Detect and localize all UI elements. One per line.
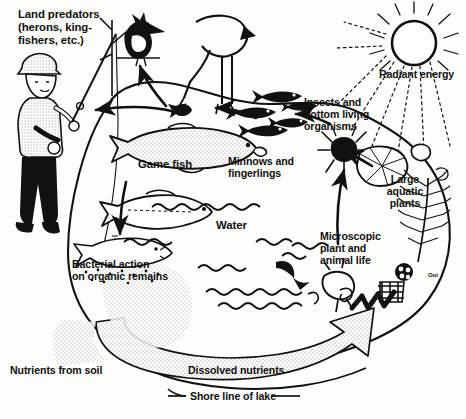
label-microscopic-life: Microscopic plant and animal life (320, 230, 381, 266)
artist-signature: Oui (428, 272, 438, 279)
label-shore-line-of-lake: Shore line of lake (190, 390, 276, 402)
label-radiant-energy: Radiant energy (379, 68, 454, 80)
diagram-artwork (0, 0, 466, 419)
label-bacterial-action: Bacterial action on organic remains (72, 258, 168, 282)
label-dissolved-nutrients: Dissolved nutrients (188, 364, 284, 376)
kingfisher-bird-icon (100, 12, 165, 96)
label-nutrients-from-soil: Nutrients from soil (10, 364, 102, 376)
heron-bird-icon (168, 16, 256, 118)
arrow-fish-to-fisherman (96, 107, 176, 112)
arrow-fish-to-kingfisher (140, 66, 166, 106)
label-large-aquatic-plants: Large aquatic plants (374, 173, 436, 209)
label-land-predators: Land predators (herons, king- fishers, e… (18, 8, 100, 47)
plankton-colony (395, 263, 413, 281)
label-insects-bottom-living: Insects and bottom living organisms (304, 96, 369, 132)
label-minnows-fingerlings: Minnows and fingerlings (228, 155, 294, 179)
lake-ecosystem-diagram: Land predators (herons, king- fishers, e… (0, 0, 466, 419)
label-game-fish: Game fish (138, 158, 192, 171)
fisherman-icon (16, 34, 118, 245)
label-water: Water (216, 219, 247, 232)
